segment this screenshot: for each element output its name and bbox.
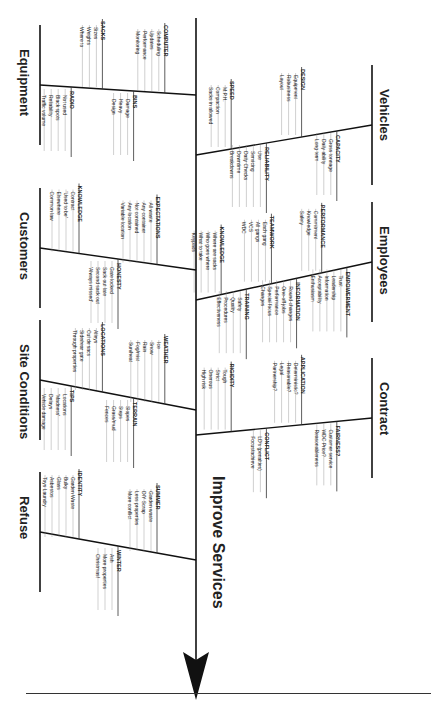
cause-item: Reasonableness	[314, 429, 320, 467]
cause-item: Slopes	[125, 406, 131, 422]
cause-title: EMPOWERMENT	[345, 271, 351, 316]
cause-item: Partnership?	[272, 363, 278, 392]
category-label-employees: Employees	[377, 226, 392, 295]
cause-item: Enthusiasm	[310, 275, 316, 301]
cause-title: SPEED	[229, 81, 235, 100]
cause-item: Any location	[127, 203, 133, 230]
cause-item: Not used	[62, 95, 68, 115]
cause-item: LD's (penalties)	[257, 436, 263, 471]
cause-item: Daily Checks	[243, 151, 249, 181]
cause-item: VCS	[248, 222, 254, 233]
cause-item: Less properties	[134, 491, 140, 526]
cause-item: Quality	[230, 297, 236, 313]
cause-item: Cul de sacs	[86, 330, 92, 357]
cause-item: Garden waste	[148, 491, 154, 522]
cause-item: Asbestos	[49, 477, 55, 498]
cause-item: Performance	[274, 286, 280, 315]
cause-item: Vehicle damage	[41, 394, 47, 430]
cause-item: Reliability	[48, 95, 54, 117]
cause-item: Scheduling	[156, 31, 162, 56]
cause-title: RELIABILITY	[264, 147, 270, 181]
cause-item: Ash	[109, 554, 115, 563]
cause-item: What to take	[198, 233, 204, 261]
cause-title: RADIO	[69, 91, 75, 109]
cause-item: Who goes where	[205, 233, 211, 271]
cause-title: TERRAIN	[132, 402, 138, 426]
cause-item: Daily ability	[321, 139, 327, 165]
cause-item: Toys Laundry	[42, 477, 48, 507]
cause-item: All waste	[148, 203, 154, 223]
cause-item: Elsewhere	[56, 192, 62, 216]
cause-item: Monitoring	[135, 31, 141, 55]
cause-item: Layout	[279, 75, 285, 91]
category-bone	[196, 418, 372, 435]
cause-title: BINS	[132, 95, 138, 108]
cause-item: High risk	[201, 370, 207, 390]
cause-item: 'Used to be'	[63, 192, 69, 218]
category-label-vehicles: Vehicles	[377, 89, 392, 141]
cause-item: WDC Price?	[321, 429, 327, 457]
cause-title: HONESTY	[116, 263, 122, 290]
cause-title: WEATHER	[163, 336, 169, 363]
cause-item: Black spots	[55, 95, 61, 121]
cause-title: SACKS	[100, 21, 106, 41]
cause-item: Rain	[142, 342, 148, 353]
cause-item: Procedures	[223, 297, 229, 323]
cause-title: TEAMWORK	[269, 216, 275, 249]
category-label-refuse: Refuse	[17, 496, 32, 539]
cause-item: Through properties	[72, 330, 78, 373]
cause-title: EXPECTATIONS	[155, 197, 161, 239]
cause-item: Gate locked	[109, 267, 115, 294]
cause-title: CAPACITY	[335, 135, 341, 163]
cause-item: Tough	[222, 370, 228, 384]
cause-item: Sizes	[93, 27, 99, 40]
cause-title: IDENTITY	[77, 471, 83, 496]
cause-title: TIPS	[69, 390, 75, 403]
cause-item: Onerous	[208, 370, 214, 390]
cause-item: Trust	[338, 275, 344, 287]
cause-item: Design	[111, 99, 117, 115]
cause-item: Breakdowns	[229, 151, 235, 179]
cause-item: Robustness	[286, 75, 292, 102]
cause-title: CONFLICT	[264, 432, 270, 460]
cause-item: Grass/mud	[111, 406, 117, 431]
cause-item: More conflict	[127, 491, 133, 520]
cause-item: Common law	[49, 192, 55, 222]
category-label-customers: Customers	[17, 212, 32, 280]
cause-item: Customer service	[328, 429, 334, 468]
cause-title: SUMMER	[155, 485, 161, 509]
cause-item: Steps	[118, 406, 124, 419]
cause-item: Not contained	[134, 203, 140, 234]
category-label-contract: Contract	[377, 382, 392, 436]
cause-item: Alleys	[93, 330, 99, 344]
cause-title: RIGIDITY	[229, 364, 235, 388]
cause-item: Information	[324, 275, 330, 300]
cause-item: Equipment	[293, 75, 299, 100]
cause-item: Strict	[215, 370, 221, 382]
cause-item: Christmas!	[95, 554, 101, 578]
cause-item: Long term	[314, 139, 320, 162]
category-bone	[40, 85, 196, 95]
cause-item: 'Always missed'	[88, 267, 94, 302]
cause-item: Side/rear gate	[79, 330, 85, 362]
cause-title: COMPUTER	[163, 25, 169, 57]
cause-item: Downtime	[236, 151, 242, 173]
cause-item: Performance	[142, 31, 148, 60]
cause-item: Safety	[299, 211, 305, 226]
cause-title: KNOWLEDGE	[219, 227, 225, 264]
cause-item: Where are sacks	[212, 233, 218, 271]
cause-item: Focus/achieve	[250, 436, 256, 468]
cause-title: KNOWLEDGE	[77, 186, 83, 223]
cause-item: Heavy	[118, 99, 124, 114]
cause-item: Commitment	[313, 211, 319, 240]
cause-item: Use	[257, 151, 263, 160]
cause-item: 'Madness'	[55, 394, 61, 416]
cause-title: INFORMATION	[295, 282, 301, 320]
cause-item: Snow	[149, 342, 155, 355]
cause-item: Changes	[260, 286, 266, 307]
cause-item: Damage	[125, 99, 131, 118]
cause-item: Each gang	[262, 222, 268, 246]
fishbone-svg: Improve Services VehiclesSPEEDM.P.H.Comp…	[0, 0, 448, 707]
cause-item: M.P.H.	[222, 87, 228, 102]
category-bone	[196, 125, 372, 155]
